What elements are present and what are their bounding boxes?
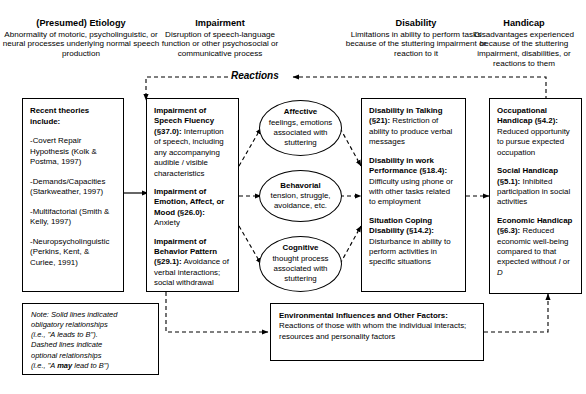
impairment-entry-0: Impairment of Speech Fluency (§37.0): In…: [154, 106, 231, 179]
impairment-entry-1: Impairment of Emotion, Affect, or Mood (…: [154, 187, 231, 229]
oval-cognitive[interactable]: Cognitive thought process associated wit…: [259, 236, 342, 292]
handicap-entry-1: Social Handicap (§5.1): Inhibited partic…: [497, 166, 574, 208]
impairment-box[interactable]: Impairment of Speech Fluency (§37.0): In…: [146, 98, 239, 292]
oval-cognitive-title: Cognitive: [268, 243, 333, 253]
oval-behavorial-title: Behavorial: [268, 181, 333, 191]
theory-item-0: -Covert Repair Hypothesis (Kolk & Postma…: [30, 136, 116, 168]
arrow-impairment-cognitive: [239, 226, 261, 264]
environment-entry: Environmental Influences and Other Facto…: [279, 311, 475, 342]
disability-entry-2-text: Disturbance in ability to perform activi…: [369, 237, 451, 267]
handicap-entry-0: Occupational Handicap (§4.2): Reduced op…: [497, 106, 574, 158]
column-subtitle-impairment: Disruption of speech-language function o…: [150, 30, 290, 59]
recent-theories-box[interactable]: Recent theories include: -Covert Repair …: [22, 98, 124, 292]
column-header-impairment: Impairment Disruption of speech-language…: [150, 18, 290, 59]
theory-item-3: -Neuropsycholinguistic (Perkins, Kent, &…: [30, 237, 116, 269]
arrow-environment-to-handicap: [484, 294, 548, 332]
note-line-5: (i.e., "A may lead to B"): [31, 361, 150, 371]
impairment-entry-1-text: Anxiety: [154, 218, 180, 227]
handicap-entry-0-label: Occupational Handicap (§4.2):: [497, 106, 558, 125]
impairment-entry-2: Impairment of Behavior Pattern (§29.1): …: [154, 237, 231, 289]
disability-entry-1: Disability in work Performance (§18.4): …: [369, 156, 458, 208]
arrow-impairment-affective: [239, 128, 261, 166]
column-title-handicap: Handicap: [462, 18, 586, 29]
column-title-impairment: Impairment: [150, 18, 290, 29]
impairment-entry-1-label: Impairment of Emotion, Affect, or Mood (…: [154, 187, 224, 217]
recent-theories-heading: Recent theories include:: [30, 106, 116, 127]
arrow-affective-disability: [340, 128, 361, 166]
note-line-4: optional relationships: [31, 351, 150, 361]
handicap-box[interactable]: Occupational Handicap (§4.2): Reduced op…: [489, 98, 582, 294]
column-title-etiology: (Presumed) Etiology: [2, 18, 160, 29]
note-line-2: (i.e., "A leads to B").: [31, 330, 150, 340]
diagram-canvas: (Presumed) Etiology Abnormality of motor…: [0, 0, 586, 394]
environmental-influences-box[interactable]: Environmental Influences and Other Facto…: [270, 303, 484, 361]
arrow-impairment-to-environment: [166, 292, 268, 332]
handicap-entry-2: Economic Handicap (§6.3): Reduced econom…: [497, 216, 574, 279]
disability-entry-2: Situation Coping Disability (§14.2): Dis…: [369, 216, 458, 268]
disability-entry-1-label: Disability in work Performance (§18.4):: [369, 156, 447, 175]
i-or-d-italic: I: [558, 257, 560, 266]
oval-affective[interactable]: Affective feelings, emotions associated …: [259, 100, 342, 156]
handicap-entry-0-text: Reduced opportunity to pursue expected o…: [497, 127, 570, 157]
column-subtitle-handicap: Disadvantages experienced because of the…: [462, 30, 586, 68]
disability-entry-0: Disability in Talking (§21): Restriction…: [369, 106, 458, 148]
reactions-dashed-left: [146, 77, 228, 100]
reactions-dashed-path: [293, 77, 546, 100]
oval-behavorial[interactable]: Behavorial tension, struggle, avoidance,…: [259, 170, 342, 222]
note-box: Note: Solid lines indicated obligatory r…: [22, 303, 159, 375]
theory-item-1: -Demands/Capacities (Starkweather, 1997): [30, 177, 116, 198]
arrow-cognitive-disability: [340, 226, 361, 264]
note-emphasis-word: may: [57, 361, 72, 370]
environment-text: Reactions of those with whom the individ…: [279, 321, 466, 340]
theory-item-2: -Multifactorial (Smith & Kelly, 1997): [30, 207, 116, 228]
disability-box[interactable]: Disability in Talking (§21): Restriction…: [361, 98, 466, 292]
disability-entry-1-text: Difficulty using phone or with other tas…: [369, 177, 453, 207]
oval-behavorial-text: tension, struggle, avoidance, etc.: [270, 191, 330, 210]
oval-affective-text: feelings, emotions associated with stutt…: [269, 118, 333, 148]
column-header-handicap: Handicap Disadvantages experienced becau…: [462, 18, 586, 68]
reactions-label: Reactions: [231, 70, 279, 81]
oval-cognitive-text: thought process associated with stutteri…: [272, 254, 328, 284]
disability-entry-2-label: Situation Coping Disability (§14.2):: [369, 216, 434, 235]
note-line-0: Note: Solid lines indicated: [31, 310, 150, 320]
note-line-3: Dashed lines indicate: [31, 340, 150, 350]
note-line-1: obligatory relationships: [31, 320, 150, 330]
environment-label: Environmental Influences and Other Facto…: [279, 311, 448, 320]
oval-affective-title: Affective: [268, 107, 333, 117]
column-header-etiology: (Presumed) Etiology Abnormality of motor…: [2, 18, 160, 59]
column-subtitle-etiology: Abnormality of motoric, psycholinguistic…: [2, 30, 160, 59]
